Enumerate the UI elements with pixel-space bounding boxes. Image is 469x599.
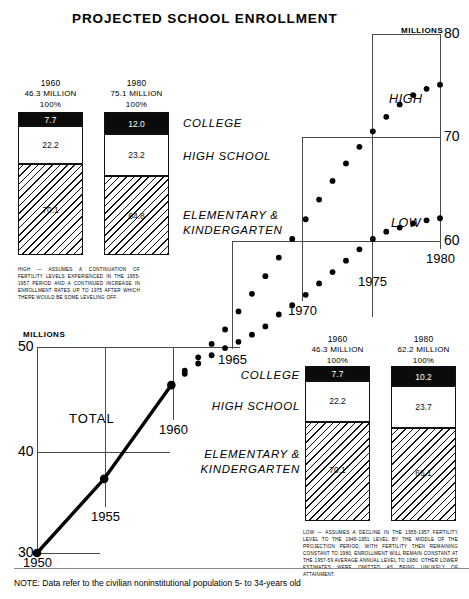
series-dot-high <box>330 178 336 184</box>
series-dot-low <box>330 269 336 275</box>
series-dot-low <box>209 352 215 358</box>
bar-value-elementary: 70.1 <box>306 465 369 475</box>
bar-group-low-1980: 1980 62.2 MILLION 100% <box>391 334 456 366</box>
series-dot-high <box>370 128 376 134</box>
series-dot-low <box>249 332 255 338</box>
bar-value-high-school: 23.7 <box>392 402 455 412</box>
series-dot-high <box>289 236 295 242</box>
bar-value-high-school: 22.2 <box>306 396 369 406</box>
series-dot-low <box>383 229 389 235</box>
series-dot-high <box>222 327 228 333</box>
category-label-college: COLLEGE <box>195 369 300 381</box>
bar-group-high-1980: 1980 75.1 MILLION 100% <box>104 78 169 110</box>
series-dot-low <box>370 236 376 242</box>
series-dot-low <box>289 302 295 308</box>
series-dot-high <box>195 354 201 360</box>
bar-value-college: 12.0 <box>105 119 168 129</box>
bar-low-1960: 7.7 22.2 70.1 <box>305 366 370 521</box>
bar-group-high-1960: 1960 46.3 MILLION 100% <box>18 78 83 110</box>
bar-pct: 100% <box>18 100 83 111</box>
bar-year: 1960 <box>18 78 83 89</box>
series-dot-low <box>357 246 363 252</box>
bar-year: 1980 <box>391 334 456 345</box>
series-dot-high <box>276 255 282 261</box>
series-dot-low <box>410 221 416 227</box>
series-dot-high <box>209 341 215 347</box>
bar-total: 75.1 MILLION <box>104 89 169 100</box>
category-label-elementary-line2: KINDERGARTEN <box>183 224 283 236</box>
bar-group-low-1960: 1960 46.3 MILLION 100% <box>305 334 370 366</box>
bar-value-elementary: 64.8 <box>105 211 168 221</box>
series-dot-low <box>195 361 201 367</box>
category-label-elementary-line2: KINDERGARTEN <box>180 463 300 475</box>
category-label-elementary-line1: ELEMENTARY & <box>180 448 300 460</box>
series-dot-high <box>249 291 255 297</box>
series-dot-high <box>262 273 268 279</box>
bar-total: 46.3 MILLION <box>18 89 83 100</box>
category-label-high-school: HIGH SCHOOL <box>183 150 271 162</box>
note-divider <box>14 568 469 569</box>
series-dot-high <box>357 144 363 150</box>
bar-value-elementary: 66.1 <box>392 468 455 478</box>
series-dot-low <box>236 339 242 345</box>
series-line-total <box>37 385 171 553</box>
infographic-root: PROJECTED SCHOOL ENROLLMENT MILLIONS 80 … <box>0 0 469 599</box>
series-dot-high <box>343 160 349 166</box>
bar-total: 62.2 MILLION <box>391 345 456 356</box>
series-dot-low <box>276 312 282 318</box>
category-label-college: COLLEGE <box>183 117 242 129</box>
bar-year: 1960 <box>305 334 370 345</box>
note-text: NOTE: Data refer to the civilian noninst… <box>14 578 301 588</box>
series-dot-high <box>397 101 403 107</box>
series-dot-low <box>222 345 228 351</box>
series-marker-total <box>33 549 42 558</box>
series-dot-low <box>316 281 322 287</box>
series-dot-high <box>437 82 443 88</box>
series-dot-low <box>262 324 268 330</box>
series-marker-total <box>100 475 109 484</box>
category-label-high-school: HIGH SCHOOL <box>195 400 300 412</box>
series-dot-high <box>410 92 416 98</box>
series-dot-low <box>182 371 188 377</box>
category-label-elementary-line1: ELEMENTARY & <box>183 209 279 221</box>
bar-pct: 100% <box>104 100 169 111</box>
series-dot-high <box>316 197 322 203</box>
bar-value-college: 10.2 <box>392 372 455 382</box>
bar-value-college: 7.7 <box>306 369 369 379</box>
bar-year: 1980 <box>104 78 169 89</box>
bar-value-college: 7.7 <box>19 115 82 125</box>
series-dot-low <box>424 217 430 223</box>
series-dot-high <box>303 216 309 222</box>
bar-low-1980: 10.2 23.7 66.1 <box>391 366 456 521</box>
bar-pct: 100% <box>391 356 456 367</box>
bar-pct: 100% <box>305 356 370 367</box>
series-dot-low <box>303 292 309 298</box>
series-dot-low <box>397 225 403 231</box>
bar-high-1960: 7.7 22.2 70.1 <box>18 112 83 255</box>
series-marker-total <box>167 381 176 390</box>
series-dot-low <box>343 258 349 264</box>
bar-value-high-school: 22.2 <box>19 140 82 150</box>
series-dot-high <box>236 308 242 314</box>
bar-value-high-school: 23.2 <box>105 150 168 160</box>
bar-total: 46.3 MILLION <box>305 345 370 356</box>
footnote-low: LOW — ASSUMES A DECLINE IN THE 1955-1957… <box>303 530 458 579</box>
series-dot-high <box>424 86 430 92</box>
bar-value-elementary: 70.1 <box>19 205 82 215</box>
series-dot-low <box>437 215 443 221</box>
footnote-high: HIGH — ASSUMES A CONTINUATION OF FERTILI… <box>18 267 140 302</box>
bar-high-1980: 12.0 23.2 64.8 <box>104 112 169 255</box>
series-dot-high <box>383 114 389 120</box>
